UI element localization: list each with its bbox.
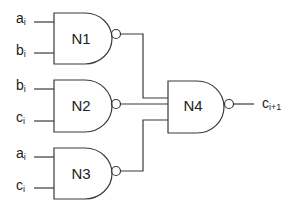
gate-label-n2: N2 — [56, 98, 106, 113]
nand-gate-n4-bubble — [225, 100, 234, 109]
input-label-n1-a: ai — [16, 11, 26, 25]
input-label-n3-c: ci — [16, 178, 25, 192]
wire-n3-to-n4 — [121, 120, 169, 171]
nand-gate-n1-bubble — [112, 30, 121, 39]
gate-label-n1: N1 — [56, 31, 106, 46]
gate-label-n4: N4 — [168, 98, 218, 113]
gate-label-n3: N3 — [56, 166, 106, 181]
input-label-n2-b: bi — [16, 78, 26, 92]
nand-gate-n3-bubble — [112, 167, 121, 176]
input-label-n3-a: ai — [16, 146, 26, 160]
input-label-n2-c: ci — [16, 110, 25, 124]
input-label-n1-b: bi — [16, 43, 26, 57]
circuit-diagram — [0, 0, 294, 206]
nand-gate-n2-bubble — [112, 100, 121, 109]
wire-n1-to-n4 — [121, 34, 169, 98]
output-label: ci+1 — [262, 96, 281, 110]
